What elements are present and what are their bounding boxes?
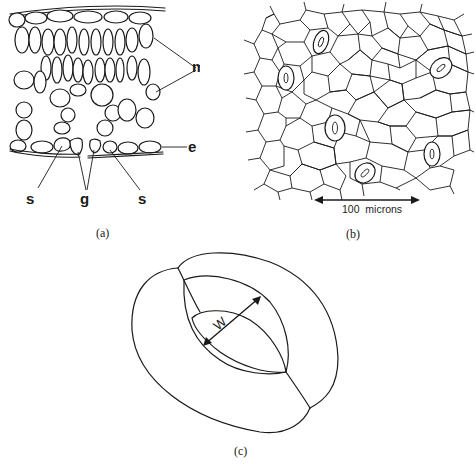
- caption-c: (c): [234, 444, 247, 459]
- label-s-right: s: [138, 190, 146, 207]
- scale-bar-label: 100 microns: [342, 203, 402, 215]
- panel-b-epidermis-surface: 100 microns: [240, 0, 476, 230]
- epidermis-cells-drawing: 100 microns: [240, 0, 476, 230]
- label-e: e: [188, 138, 196, 155]
- scale-bar: 100 microns: [314, 196, 420, 215]
- panel-c-stoma-detail: W: [100, 240, 380, 464]
- width-label-w: W: [210, 313, 230, 333]
- panel-a-leaf-cross-section: m e s g s: [0, 0, 200, 215]
- label-g: g: [80, 190, 89, 207]
- caption-a: (a): [96, 226, 109, 241]
- label-s-left: s: [26, 190, 34, 207]
- label-m: m: [192, 58, 200, 75]
- stoma-drawing: W: [100, 240, 380, 450]
- leaf-cross-section-drawing: m e s g s: [0, 0, 200, 215]
